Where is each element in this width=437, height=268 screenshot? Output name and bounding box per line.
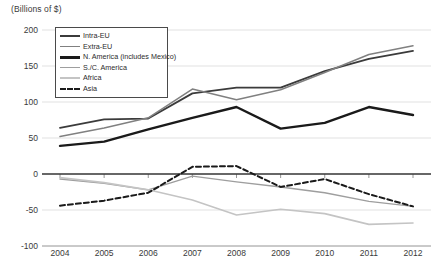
legend-item[interactable]: Extra-EU xyxy=(60,42,163,53)
y-tick-label: 0 xyxy=(4,169,38,179)
y-tick-label: 150 xyxy=(4,61,38,71)
x-tick-label: 2009 xyxy=(271,248,290,258)
y-tick-label: -100 xyxy=(4,241,38,251)
x-tick-label: 2008 xyxy=(227,248,246,258)
x-tick-label: 2004 xyxy=(51,248,70,258)
legend-item-label: Africa xyxy=(83,73,101,83)
x-tick-label: 2007 xyxy=(183,248,202,258)
legend-item[interactable]: Africa xyxy=(60,73,163,84)
line-chart: (Billions of $) 200150100500-50-100 2004… xyxy=(0,0,437,268)
legend-item[interactable]: Intra-EU xyxy=(60,31,163,42)
legend-item-label: S./C. America xyxy=(83,63,127,73)
chart-legend: Intra-EUExtra-EUN. America (includes Mex… xyxy=(55,27,168,98)
y-axis-tick-labels: 200150100500-50-100 xyxy=(0,0,38,268)
x-tick-label: 2006 xyxy=(139,248,158,258)
x-tick-label: 2005 xyxy=(95,248,114,258)
legend-item[interactable]: N. America (includes Mexico) xyxy=(60,52,163,63)
legend-item[interactable]: S./C. America xyxy=(60,63,163,74)
y-tick-label: 200 xyxy=(4,25,38,35)
x-tick-label: 2011 xyxy=(360,248,378,258)
y-tick-label: 50 xyxy=(4,133,38,143)
legend-item[interactable]: Asia xyxy=(60,84,163,95)
legend-item-label: N. America (includes Mexico) xyxy=(83,52,176,62)
series-line xyxy=(60,178,413,225)
y-tick-label: -50 xyxy=(4,205,38,215)
legend-item-label: Asia xyxy=(83,84,97,94)
y-tick-label: 100 xyxy=(4,97,38,107)
x-tick-label: 2012 xyxy=(404,248,423,258)
x-tick-label: 2010 xyxy=(315,248,334,258)
series-line xyxy=(60,166,413,206)
legend-item-label: Intra-EU xyxy=(83,31,110,41)
legend-item-label: Extra-EU xyxy=(83,42,112,52)
